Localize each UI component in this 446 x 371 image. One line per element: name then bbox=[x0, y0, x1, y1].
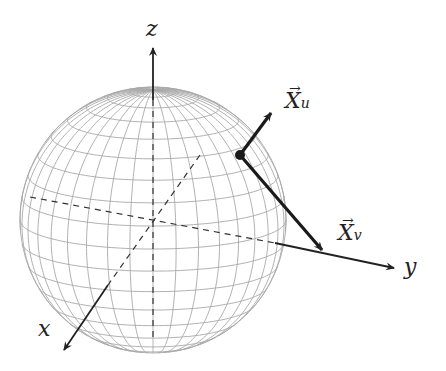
surface-point bbox=[235, 150, 245, 160]
sphere-diagram bbox=[0, 0, 446, 371]
xv-vector bbox=[240, 155, 322, 250]
xu-vector bbox=[240, 113, 271, 155]
y-axis bbox=[275, 243, 394, 268]
x-axis bbox=[64, 285, 108, 350]
y-axis-label: y bbox=[404, 256, 416, 278]
x-axis-label: x bbox=[38, 318, 50, 340]
xv-label: →Xv bbox=[338, 222, 362, 244]
xu-label: →Xu bbox=[285, 90, 310, 112]
z-axis-label: z bbox=[146, 18, 158, 40]
